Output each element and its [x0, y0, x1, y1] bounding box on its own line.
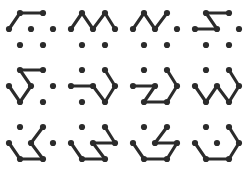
lattice-dot-tr[interactable]	[102, 124, 108, 130]
lattice-dot-tl[interactable]	[17, 67, 23, 73]
lattice-dot-br[interactable]	[40, 156, 46, 162]
lattice-dot-bl[interactable]	[141, 99, 147, 105]
lattice-dot-tr[interactable]	[40, 10, 46, 16]
lattice-dot-tl[interactable]	[203, 67, 209, 73]
panel-r1c2[interactable]	[62, 0, 124, 57]
lattice-dot-bl[interactable]	[141, 42, 147, 48]
lattice-dot-ml[interactable]	[130, 140, 136, 146]
lattice-dot-mc[interactable]	[90, 83, 96, 89]
lattice-dot-tl[interactable]	[79, 67, 85, 73]
lattice-dot-ml[interactable]	[68, 140, 74, 146]
lattice-dot-br[interactable]	[102, 99, 108, 105]
lattice-dot-mc[interactable]	[28, 83, 34, 89]
lattice-dot-mr[interactable]	[174, 26, 180, 32]
lattice-dot-tl[interactable]	[79, 10, 85, 16]
lattice-dot-bl[interactable]	[17, 42, 23, 48]
panel-r2c2[interactable]	[62, 57, 124, 114]
lattice-dot-ml[interactable]	[6, 26, 12, 32]
lattice-dot-tl[interactable]	[17, 10, 23, 16]
lattice-dot-br[interactable]	[226, 99, 232, 105]
lattice-dot-mc[interactable]	[28, 26, 34, 32]
lattice-dot-ml[interactable]	[68, 26, 74, 32]
lattice-dot-bl[interactable]	[203, 42, 209, 48]
lattice-dot-tl[interactable]	[17, 124, 23, 130]
lattice-dot-tr[interactable]	[102, 10, 108, 16]
lattice-dot-ml[interactable]	[6, 83, 12, 89]
lattice-dot-bl[interactable]	[79, 156, 85, 162]
panel-r3c3[interactable]	[124, 114, 186, 171]
lattice-dot-br[interactable]	[226, 42, 232, 48]
panel-r1c4[interactable]	[186, 0, 248, 57]
lattice-dot-mr[interactable]	[174, 140, 180, 146]
lattice-dot-mc[interactable]	[152, 83, 158, 89]
lattice-dot-mc[interactable]	[28, 140, 34, 146]
lattice-dot-mr[interactable]	[174, 83, 180, 89]
lattice-dot-ml[interactable]	[68, 83, 74, 89]
lattice-dot-tl[interactable]	[141, 10, 147, 16]
panel-r2c4[interactable]	[186, 57, 248, 114]
lattice-dot-mc[interactable]	[214, 83, 220, 89]
lattice-dot-br[interactable]	[226, 156, 232, 162]
lattice-dot-br[interactable]	[164, 42, 170, 48]
lattice-dot-mr[interactable]	[50, 26, 56, 32]
panel-r3c2[interactable]	[62, 114, 124, 171]
lattice-dot-mc[interactable]	[214, 140, 220, 146]
lattice-dot-mr[interactable]	[236, 26, 242, 32]
lattice-dot-mr[interactable]	[112, 83, 118, 89]
panel-r3c1[interactable]	[0, 114, 62, 171]
lattice-dot-mr[interactable]	[112, 140, 118, 146]
lattice-dot-ml[interactable]	[192, 83, 198, 89]
lattice-dot-ml[interactable]	[130, 26, 136, 32]
lattice-dot-ml[interactable]	[6, 140, 12, 146]
panel-grid	[0, 0, 248, 171]
lattice-dot-bl[interactable]	[203, 99, 209, 105]
lattice-dot-br[interactable]	[40, 99, 46, 105]
lattice-dot-tr[interactable]	[164, 67, 170, 73]
lattice-dot-tl[interactable]	[141, 67, 147, 73]
lattice-dot-mc[interactable]	[90, 140, 96, 146]
lattice-dot-tl[interactable]	[141, 124, 147, 130]
lattice-dot-mr[interactable]	[236, 140, 242, 146]
lattice-dot-ml[interactable]	[192, 140, 198, 146]
lattice-dot-tr[interactable]	[164, 124, 170, 130]
lattice-dot-mr[interactable]	[112, 26, 118, 32]
lattice-dot-tr[interactable]	[226, 124, 232, 130]
lattice-dot-mr[interactable]	[50, 83, 56, 89]
lattice-dot-mr[interactable]	[50, 140, 56, 146]
lattice-dot-bl[interactable]	[203, 156, 209, 162]
lattice-dot-mc[interactable]	[214, 26, 220, 32]
lattice-dot-mc[interactable]	[152, 26, 158, 32]
panel-r3c4[interactable]	[186, 114, 248, 171]
lattice-dot-bl[interactable]	[141, 156, 147, 162]
lattice-dot-mc[interactable]	[90, 26, 96, 32]
lattice-dot-tl[interactable]	[203, 10, 209, 16]
lattice-dot-tr[interactable]	[40, 124, 46, 130]
lattice-dot-tr[interactable]	[40, 67, 46, 73]
lattice-dot-br[interactable]	[164, 156, 170, 162]
panel-r2c3[interactable]	[124, 57, 186, 114]
lattice-dot-br[interactable]	[102, 156, 108, 162]
panel-r1c3[interactable]	[124, 0, 186, 57]
lattice-dot-tr[interactable]	[226, 67, 232, 73]
panel-r1c1[interactable]	[0, 0, 62, 57]
lattice-dot-ml[interactable]	[130, 83, 136, 89]
lattice-dot-mr[interactable]	[236, 83, 242, 89]
lattice-dot-mc[interactable]	[152, 140, 158, 146]
lattice-dot-bl[interactable]	[79, 99, 85, 105]
lattice-dot-bl[interactable]	[79, 42, 85, 48]
lattice-dot-tl[interactable]	[203, 124, 209, 130]
lattice-dot-tr[interactable]	[226, 10, 232, 16]
lattice-dot-br[interactable]	[164, 99, 170, 105]
lattice-dot-bl[interactable]	[17, 156, 23, 162]
figure-canvas	[0, 0, 249, 171]
lattice-dot-ml[interactable]	[192, 26, 198, 32]
lattice-dot-br[interactable]	[40, 42, 46, 48]
panel-r2c1[interactable]	[0, 57, 62, 114]
lattice-dot-bl[interactable]	[17, 99, 23, 105]
lattice-dot-tr[interactable]	[164, 10, 170, 16]
lattice-dot-tl[interactable]	[79, 124, 85, 130]
lattice-dot-br[interactable]	[102, 42, 108, 48]
lattice-dot-tr[interactable]	[102, 67, 108, 73]
